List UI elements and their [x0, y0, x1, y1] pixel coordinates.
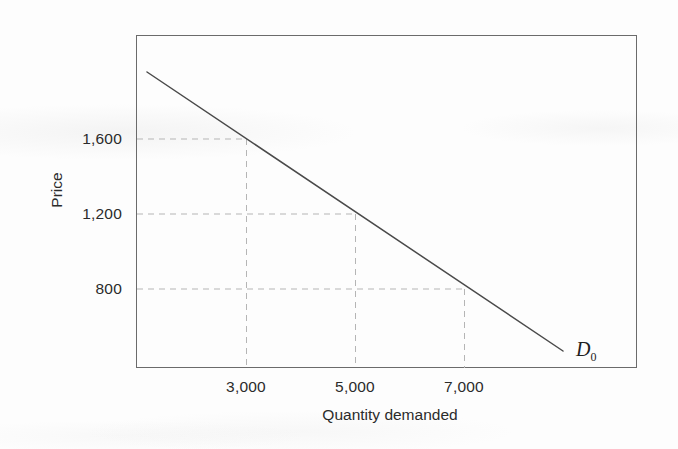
- y-axis-title: Price: [48, 172, 66, 207]
- curve-label-d0: D0: [576, 338, 596, 365]
- demand-curve-d0: [147, 72, 563, 351]
- curve-label-subscript: 0: [590, 350, 596, 364]
- y-tick-label-1600: 1,600: [40, 130, 122, 148]
- curve-label-letter: D: [576, 338, 590, 360]
- chart-layer: 1,600 1,200 800 3,000 5,000 7,000 Price …: [0, 0, 678, 449]
- x-tick-label-5000: 5,000: [315, 378, 395, 396]
- figure-canvas: 1,600 1,200 800 3,000 5,000 7,000 Price …: [0, 0, 678, 449]
- x-tick-label-3000: 3,000: [206, 378, 286, 396]
- x-axis-title: Quantity demanded: [322, 406, 457, 424]
- y-tick-label-800: 800: [40, 280, 122, 298]
- y-tick-label-1200: 1,200: [40, 205, 122, 223]
- x-tick-label-7000: 7,000: [424, 378, 504, 396]
